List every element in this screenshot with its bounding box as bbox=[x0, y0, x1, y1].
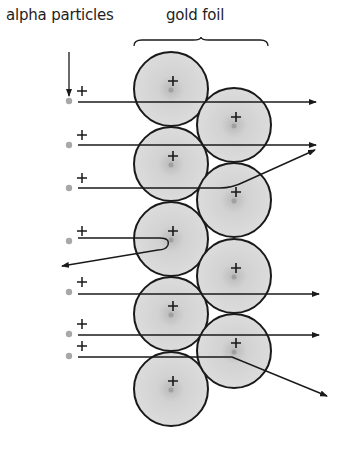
positive-charge-icon bbox=[77, 173, 87, 183]
nucleus-dot bbox=[169, 238, 174, 243]
gold-atom bbox=[134, 352, 208, 426]
gold-atom bbox=[197, 239, 271, 313]
gold-atoms bbox=[134, 52, 271, 426]
positive-charge-icon bbox=[77, 277, 87, 287]
positive-charge-icon bbox=[77, 130, 87, 140]
positive-charge-icon bbox=[77, 86, 87, 96]
gold-atom bbox=[197, 88, 271, 162]
positive-charge-icon bbox=[77, 226, 87, 236]
gold-atom bbox=[134, 52, 208, 126]
positive-charge-icon bbox=[77, 319, 87, 329]
alpha-particle bbox=[66, 277, 87, 295]
alpha-particle bbox=[66, 226, 87, 244]
gold-foil-brace bbox=[134, 37, 268, 46]
nucleus-dot bbox=[232, 124, 237, 129]
gold-atom bbox=[134, 277, 208, 351]
positive-charge-icon bbox=[77, 341, 87, 351]
gold-atom bbox=[134, 202, 208, 276]
nucleus-dot bbox=[232, 350, 237, 355]
nucleus-dot bbox=[169, 163, 174, 168]
nucleus-dot bbox=[232, 275, 237, 280]
nucleus-dot bbox=[169, 313, 174, 318]
nucleus-dot bbox=[232, 199, 237, 204]
nucleus-dot bbox=[169, 88, 174, 93]
nucleus-dot bbox=[169, 388, 174, 393]
gold-atom bbox=[197, 314, 271, 388]
rutherford-scattering-diagram bbox=[0, 0, 340, 456]
alpha-particle-sources bbox=[66, 86, 87, 359]
gold-atom bbox=[134, 127, 208, 201]
